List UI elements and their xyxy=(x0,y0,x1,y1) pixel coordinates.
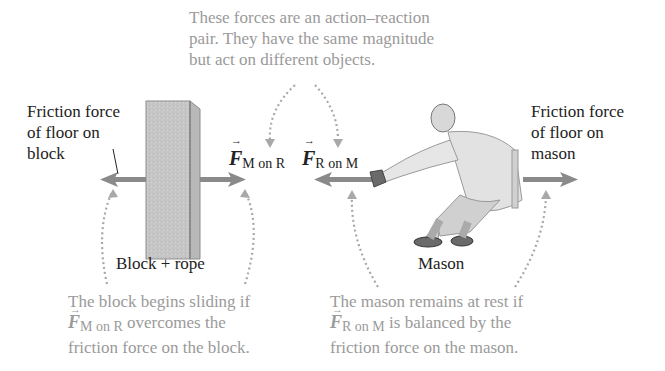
callout-line: friction force on the mason. xyxy=(330,337,523,358)
friction-arrow-block xyxy=(100,172,146,187)
vector-f: F xyxy=(330,312,342,332)
block-icon xyxy=(146,101,200,259)
force-arrow-m-on-r xyxy=(200,172,246,187)
vector-subscript: M on R xyxy=(80,319,123,334)
friction-mason-label: Friction force of floor on mason xyxy=(531,101,624,164)
vector-subscript: M on R xyxy=(242,156,285,171)
friction-arrow-mason xyxy=(523,172,578,187)
callout-line: These forces are an action–reaction xyxy=(189,7,434,28)
vector-subscript: R on M xyxy=(342,319,385,334)
force-label-m-on-r: FM on R xyxy=(229,147,285,172)
label-line: of floor on xyxy=(27,122,120,143)
label-line: of floor on xyxy=(531,122,624,143)
label-line: block xyxy=(27,143,120,164)
force-label-r-on-m: FR on M xyxy=(302,147,358,172)
force-arrow-r-on-m xyxy=(314,172,374,187)
callout-line: pair. They have the same magnitude xyxy=(189,28,434,49)
mason-rest-callout: The mason remains at rest if FR on M is … xyxy=(330,291,523,358)
callout-line: The mason remains at rest if xyxy=(330,291,523,312)
action-reaction-callout: These forces are an action–reaction pair… xyxy=(189,7,434,70)
callout-line: but act on different objects. xyxy=(189,49,434,70)
vector-f: F xyxy=(229,147,242,169)
vector-subscript: R on M xyxy=(315,156,358,171)
vector-f: F xyxy=(302,147,315,169)
callout-line: The block begins sliding if xyxy=(68,291,250,312)
label-line: mason xyxy=(531,143,624,164)
callout-line: friction force on the block. xyxy=(68,337,250,358)
mason-label: Mason xyxy=(418,253,464,274)
callout-text: is balanced by the xyxy=(385,313,512,332)
friction-block-label: Friction force of floor on block xyxy=(27,101,120,164)
label-line: Friction force xyxy=(531,101,624,122)
mason-figure xyxy=(370,104,522,247)
vector-f: F xyxy=(68,312,80,332)
callout-text: overcomes the xyxy=(123,313,226,332)
label-line: Friction force xyxy=(27,101,120,122)
block-sliding-callout: The block begins sliding if FM on R over… xyxy=(68,291,250,358)
block-rope-label: Block + rope xyxy=(116,253,205,274)
